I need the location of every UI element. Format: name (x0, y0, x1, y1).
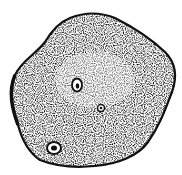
eye-lower-left-icon (47, 142, 61, 154)
eye-center-icon (98, 105, 105, 112)
potato-drawing (0, 0, 182, 175)
potato-illustration (0, 0, 182, 175)
eye-upper-left-icon (72, 79, 82, 92)
